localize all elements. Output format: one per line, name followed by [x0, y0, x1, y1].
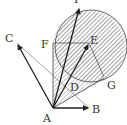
- vector-diagram: A B C D E F G P: [0, 0, 127, 125]
- label-D: D: [70, 81, 79, 94]
- label-F: F: [41, 38, 49, 51]
- label-A: A: [42, 112, 52, 125]
- label-P: P: [74, 0, 82, 6]
- vector-AC: [18, 45, 53, 108]
- label-B: B: [92, 103, 100, 116]
- label-C: C: [5, 32, 13, 45]
- label-E: E: [90, 34, 98, 47]
- shaded-region: [53, 10, 127, 108]
- label-G: G: [107, 79, 116, 92]
